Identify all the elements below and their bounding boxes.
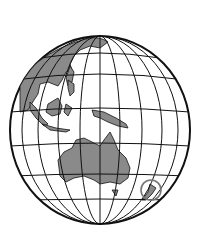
- globe-illustration: [0, 0, 202, 237]
